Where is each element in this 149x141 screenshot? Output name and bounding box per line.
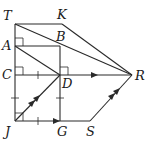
segment-AD (15, 46, 60, 75)
parallel-arrows (28, 72, 120, 124)
arrow-SR-1 (108, 93, 115, 100)
right-angle-A (15, 38, 23, 46)
segments (15, 24, 132, 121)
label-C: C (2, 67, 12, 82)
label-B: B (55, 29, 66, 44)
label-G: G (57, 124, 67, 139)
right-angle-D (60, 67, 68, 75)
label-J: J (2, 124, 11, 139)
label-A: A (1, 38, 11, 53)
geometry-diagram: T K A B C D R J G S (0, 0, 149, 141)
label-K: K (56, 7, 68, 22)
label-S: S (86, 124, 95, 139)
label-D: D (61, 76, 73, 91)
segment-TR (15, 24, 132, 75)
label-T: T (3, 8, 13, 23)
right-angle-C (15, 67, 23, 75)
label-R: R (134, 68, 145, 83)
arrow-DR (91, 72, 98, 78)
